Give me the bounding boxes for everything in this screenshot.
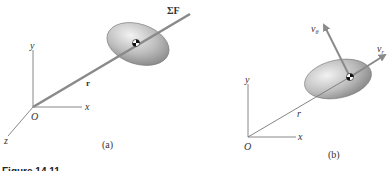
x-axis-label-b: x (297, 131, 303, 142)
origin-label-a: O (31, 111, 38, 122)
diagram-canvas: y x z O r ΣF (a) y x O (0, 0, 391, 175)
origin-label-b: O (244, 141, 251, 152)
v-theta-label: vθ (311, 23, 318, 35)
position-vector-r-b (248, 77, 350, 137)
panel-label-a: (a) (102, 139, 113, 151)
y-axis-label-b: y (244, 74, 250, 85)
panel-b: y x O r vθ vr (b) (244, 23, 385, 161)
z-axis-a (8, 107, 33, 136)
center-of-mass-icon-b (346, 73, 353, 80)
r-label-b: r (297, 108, 301, 119)
center-of-mass-icon-a (132, 39, 139, 46)
z-axis-label-a: z (3, 135, 8, 146)
v-r-label: vr (377, 43, 384, 55)
force-label-a: ΣF (167, 5, 180, 16)
r-label-a: r (86, 78, 90, 88)
y-axis-label-a: y (29, 40, 35, 51)
x-axis-label-a: x (84, 101, 90, 112)
panel-a: y x z O r ΣF (a) (3, 5, 190, 151)
body-disc-b (301, 53, 375, 104)
panel-label-b: (b) (328, 149, 340, 161)
